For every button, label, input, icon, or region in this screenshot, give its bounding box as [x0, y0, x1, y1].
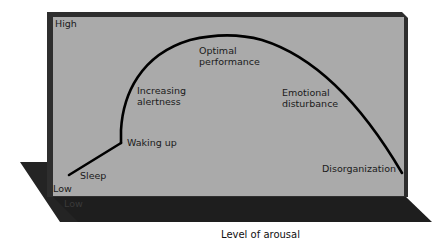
floor-slab	[52, 196, 432, 222]
optimal-performance-label-line2: performance	[199, 57, 260, 68]
emotional-disturbance-label-line2: disturbance	[282, 99, 338, 110]
increasing-alertness-label-line1: Increasing	[137, 86, 186, 97]
diagram-graphics	[0, 0, 448, 247]
optimal-performance-label-line1: Optimal	[199, 46, 237, 57]
y-axis-high-label: High	[55, 19, 77, 30]
x-axis-title: Level of arousal	[221, 229, 300, 240]
x-axis-low-label: Low	[64, 199, 83, 210]
sleep-label: Sleep	[80, 171, 106, 182]
disorganization-label: Disorganization	[322, 164, 396, 175]
waking-up-label: Waking up	[127, 138, 177, 149]
increasing-alertness-label-line2: alertness	[137, 97, 181, 108]
emotional-disturbance-label-line1: Emotional	[282, 88, 330, 99]
arousal-performance-diagram: High Low Low Sleep Waking up Increasing …	[0, 0, 448, 247]
y-axis-low-label: Low	[53, 184, 72, 195]
